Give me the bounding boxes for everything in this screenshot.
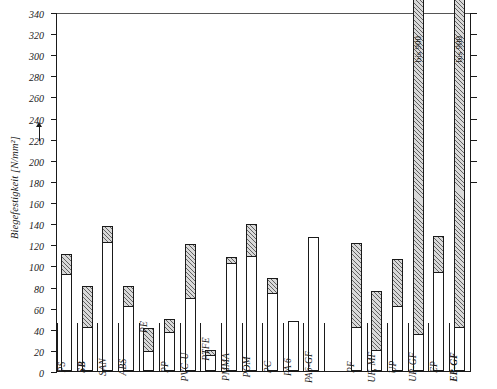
bar-label: PMMA <box>221 353 231 381</box>
bar-pa6-gf: PA6-GF <box>308 237 319 371</box>
bar-pmma: PMMA <box>226 258 237 371</box>
y-tick-label: 180 <box>29 177 44 188</box>
bar-ep: EP <box>433 237 444 371</box>
bar-pp: PP <box>164 320 175 371</box>
bar-range-hatched <box>61 254 72 275</box>
y-tick-label: 160 <box>29 199 44 210</box>
bar-label: ABS <box>118 359 128 376</box>
y-tick-label: 0 <box>39 368 44 379</box>
bar-ep-gf: bis 900EP-GF <box>454 0 465 371</box>
bar-separator <box>449 323 450 371</box>
y-axis-title-wrap: Biegefestigkeit [N/mm²] <box>0 0 26 389</box>
bar-separator <box>200 323 201 371</box>
bar-label: PTFE <box>201 337 211 361</box>
y-axis-title: Biegefestigkeit [N/mm²] <box>9 88 20 288</box>
bar-abs: ABS <box>123 287 134 371</box>
bar-label: EP <box>429 361 439 373</box>
bar-label: PF <box>346 361 356 373</box>
bar-range-hatched <box>246 224 257 257</box>
bar-label: EP-GF <box>449 352 459 382</box>
bar-separator <box>77 323 78 371</box>
bar-separator <box>221 323 222 371</box>
bar-ps: PS <box>61 255 72 371</box>
bar-range-hatched <box>371 291 382 351</box>
bar-pa-6: PA 6 <box>288 321 299 371</box>
y-tick-label: 40 <box>34 325 44 336</box>
bar-separator <box>283 323 284 371</box>
bar-pc: PC <box>267 279 278 371</box>
bar-range-hatched <box>164 319 175 333</box>
bar-range-hatched <box>351 243 362 327</box>
y-tick-label: 240 <box>29 114 44 125</box>
bar-separator <box>470 323 471 371</box>
right-y-tick <box>471 76 477 77</box>
bar-label: PS <box>57 362 67 373</box>
y-tick-label: 200 <box>29 156 44 167</box>
bar-separator <box>242 323 243 371</box>
right-y-tick <box>471 182 477 183</box>
bar-separator <box>324 323 325 371</box>
bar-label: SAN <box>98 358 108 376</box>
bar-separator <box>139 323 140 371</box>
bar-separator <box>180 323 181 371</box>
right-y-tick <box>471 13 477 14</box>
bar-label: SB <box>77 361 87 373</box>
bar-range-hatched <box>102 226 113 243</box>
bar-label: PP <box>160 361 170 373</box>
bar-san: SAN <box>102 227 113 371</box>
y-tick-label: 100 <box>29 262 44 273</box>
bar-range-hatched <box>185 244 196 299</box>
bar-label: POM <box>242 356 252 377</box>
y-tick-label: 260 <box>29 93 44 104</box>
bar-label: PC <box>263 361 273 374</box>
bar-label: UF, MF <box>367 351 377 382</box>
bar-pf: PF <box>351 244 362 371</box>
bar-chart-figure: Biegefestigkeit [N/mm²] 0204060801001201… <box>0 0 497 389</box>
bar-label: PVC-U <box>180 353 190 382</box>
right-y-tick <box>471 161 477 162</box>
bar-range-hatched <box>82 286 93 328</box>
right-y-tick <box>471 119 477 120</box>
bar-up: UP <box>392 260 403 371</box>
bar-range-hatched <box>123 286 134 307</box>
bar-pom: POM <box>246 225 257 371</box>
bar-uf-mf: UF, MF <box>371 292 382 371</box>
bar-annotation: bis 900 <box>413 36 423 62</box>
y-tick-label: 140 <box>29 220 44 231</box>
bar-separator <box>408 323 409 371</box>
y-tick-label: 60 <box>34 304 44 315</box>
bar-separator <box>57 323 58 371</box>
bar-sb: SB <box>82 287 93 371</box>
bar-annotation: bis 900 <box>454 36 464 62</box>
bar-range-hatched <box>433 236 444 273</box>
right-y-tick <box>471 97 477 98</box>
bar-label: PA 6 <box>283 358 293 376</box>
y-tick-label: 340 <box>29 9 44 20</box>
bar-label: UP-GF <box>408 352 418 382</box>
bar-separator <box>97 323 98 371</box>
bar-pe: PE <box>143 329 154 371</box>
bar-separator <box>367 323 368 371</box>
bar-ptfe: PTFE <box>205 351 216 371</box>
bar-pvc-u: PVC-U <box>185 245 196 371</box>
bar-label: PA6-GF <box>304 351 314 383</box>
bar-separator <box>262 323 263 371</box>
y-tick-label: 280 <box>29 72 44 83</box>
bar-label: UP <box>388 360 398 373</box>
bar-range-hatched <box>226 257 237 264</box>
plot-area: 0204060801001201401601802002202402602803… <box>56 13 471 372</box>
bar-separator <box>428 323 429 371</box>
bar-separator <box>387 323 388 371</box>
bar-range-hatched <box>392 259 403 307</box>
bar-up-gf: bis 900UP-GF <box>413 0 424 371</box>
y-tick-label: 320 <box>29 30 44 41</box>
y-tick-label: 220 <box>29 135 44 146</box>
right-y-tick <box>471 55 477 56</box>
bar-separator <box>303 323 304 371</box>
bars-group: PSSBSANABSPEPPPVC-UPTFEPMMAPOMPCPA 6PA6-… <box>57 13 471 371</box>
right-y-tick <box>471 140 477 141</box>
y-tick-label: 300 <box>29 51 44 62</box>
y-tick-label: 20 <box>34 346 44 357</box>
right-y-tick <box>471 34 477 35</box>
bar-label: PE <box>139 321 149 333</box>
